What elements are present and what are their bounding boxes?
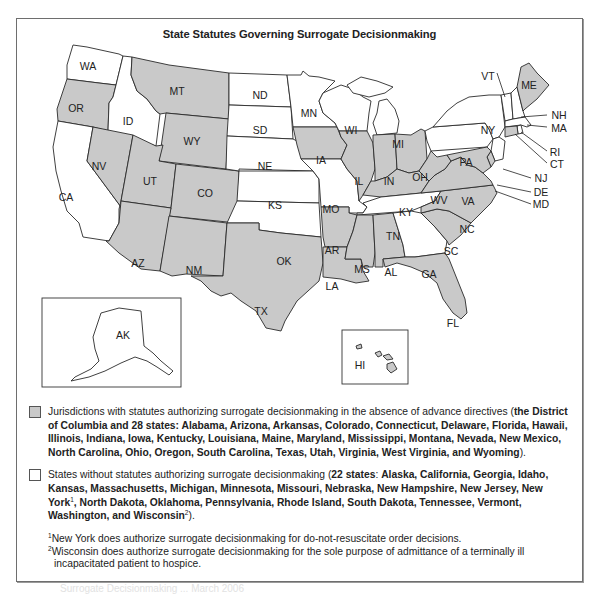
figure-frame: State Statutes Governing Surrogate Decis…	[16, 18, 583, 582]
state-label: CA	[59, 191, 74, 203]
footnotes: 1New York does authorize surrogate decis…	[29, 533, 569, 571]
state-label: LA	[326, 280, 339, 292]
footnote-2: 2Wisconsin does authorize surrogate deci…	[48, 546, 569, 572]
state-label: MS	[354, 263, 370, 275]
footnote-text: New York does authorize surrogate decisi…	[52, 533, 462, 544]
state-label: GA	[421, 268, 436, 280]
state-label: ME	[521, 79, 537, 91]
state-label: NM	[186, 264, 202, 276]
state-label: TN	[386, 230, 400, 242]
state-label: PA	[459, 156, 472, 168]
state-label: NC	[459, 223, 475, 235]
state-label: NY	[481, 124, 496, 136]
legend-with-lead: Jurisdictions with statutes authorizing …	[48, 406, 508, 417]
footnote-text: Wisconsin does authorize surrogate decis…	[52, 546, 525, 570]
state-label: MT	[169, 85, 185, 97]
state-label: WY	[184, 135, 201, 147]
state-label: VA	[461, 195, 474, 207]
hawaii-inset-frame	[342, 330, 408, 384]
legend-without-lead: States without statutes authorizing surr…	[48, 469, 325, 480]
state-label: ND	[252, 89, 268, 101]
state-label: CO	[197, 187, 213, 199]
state-label: NV	[92, 160, 107, 172]
legend-item-without-statute: States without statutes authorizing surr…	[29, 468, 569, 522]
state-label: VT	[481, 70, 495, 82]
faded-caption: Surrogate Decisionmaking ... March 2006	[60, 583, 244, 594]
paren-close: ).	[188, 510, 194, 521]
state-label: WI	[345, 124, 358, 136]
state-label: CT	[550, 158, 565, 170]
state-label: DE	[534, 186, 549, 198]
state-label: UT	[143, 175, 158, 187]
state-label: WA	[80, 60, 97, 72]
legend-item-with-statute: Jurisdictions with statutes authorizing …	[29, 405, 569, 459]
state-label: MA	[551, 122, 567, 134]
state-label: IA	[316, 154, 326, 166]
state-label: ID	[123, 115, 134, 127]
state-label: KY	[399, 206, 413, 218]
state-label: OR	[68, 102, 84, 114]
state-label: OK	[276, 255, 291, 267]
state-label: WV	[431, 194, 448, 206]
legend-without-states-b: , North Dakota, Oklahoma, Pennsylvania, …	[48, 497, 522, 522]
state-label: RI	[550, 146, 561, 158]
state-label: MD	[533, 198, 550, 210]
state-label: NH	[551, 109, 566, 121]
footnote-1: 1New York does authorize surrogate decis…	[48, 533, 569, 546]
state-label: AK	[116, 329, 130, 341]
state-label: SD	[253, 124, 268, 136]
state-label: TX	[254, 305, 267, 317]
state-label: NJ	[535, 172, 548, 184]
legend-swatch-gray	[29, 406, 41, 418]
state-label: FL	[447, 317, 459, 329]
paren-close: ).	[520, 447, 526, 458]
state-label: IL	[355, 175, 364, 187]
state-label: SC	[444, 245, 459, 257]
state-label: IN	[384, 175, 395, 187]
state-label: MN	[301, 107, 317, 119]
state-label: KS	[268, 199, 282, 211]
state-label: OH	[412, 171, 428, 183]
us-map: WA OR CA ID NV MT WY UT CO AZ NM ND SD N…	[17, 19, 582, 399]
state-label: AR	[325, 244, 340, 256]
state-label: HI	[355, 359, 366, 371]
state-label: AZ	[131, 257, 145, 269]
state-label: MO	[323, 203, 340, 215]
legend-without-count: 22 states	[331, 469, 375, 480]
legend-swatch-white	[29, 469, 41, 481]
legend: Jurisdictions with statutes authorizing …	[29, 405, 569, 571]
state-label: AL	[385, 266, 398, 278]
state-FL	[383, 253, 467, 319]
state-label: MI	[392, 138, 404, 150]
state-label: NE	[258, 160, 273, 172]
